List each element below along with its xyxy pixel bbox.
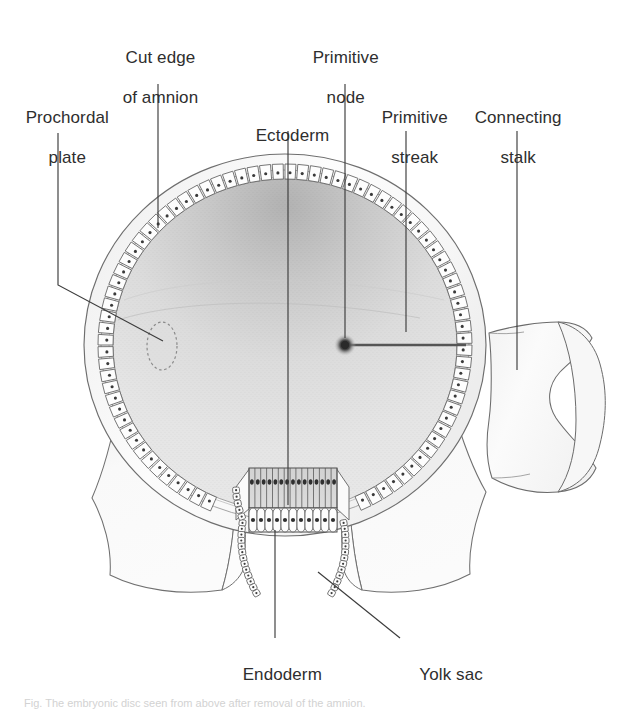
label-primitive-streak: Primitive streak (372, 88, 448, 168)
label-prochordal-plate: Prochordal plate (16, 88, 109, 168)
prochordal-plate-marker (147, 322, 177, 370)
endoderm-cell-row (249, 508, 337, 532)
label-primitive-streak-line1: Primitive (382, 108, 448, 127)
label-primitive-streak-line2: streak (391, 148, 438, 167)
ectoderm-cell-row (249, 468, 337, 508)
label-cut-edge-amnion: Cut edge of amnion (113, 28, 198, 108)
label-prochordal-plate-line2: plate (49, 148, 86, 167)
label-connecting-stalk-line2: stalk (500, 148, 535, 167)
label-connecting-stalk-line1: Connecting (475, 108, 562, 127)
label-connecting-stalk: Connecting stalk (465, 88, 562, 168)
label-prochordal-plate-line1: Prochordal (26, 108, 109, 127)
label-yolk-sac-line1: Yolk sac (419, 665, 483, 684)
label-cut-edge-amnion-line2: of amnion (123, 88, 199, 107)
label-endoderm-line1: Endoderm (243, 665, 322, 684)
label-ectoderm-line1: Ectoderm (256, 126, 330, 145)
label-primitive-node-line2: node (327, 88, 365, 107)
connecting-stalk-shape (487, 322, 605, 492)
label-primitive-node-line1: Primitive (313, 48, 379, 67)
label-cut-edge-amnion-line1: Cut edge (126, 48, 196, 67)
label-primitive-node: Primitive node (303, 28, 379, 108)
figure-canvas: Prochordal plate Cut edge of amnion Ecto… (0, 0, 640, 710)
figure-caption: Fig. The embryonic disc seen from above … (24, 697, 624, 710)
label-yolk-sac: Yolk sac (410, 645, 483, 685)
label-ectoderm: Ectoderm (246, 106, 329, 146)
label-endoderm: Endoderm (233, 645, 322, 685)
